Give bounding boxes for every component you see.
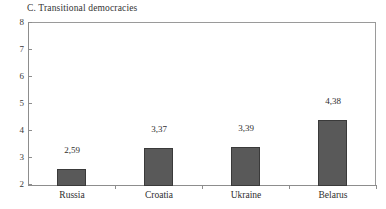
- category-label-ukraine: Ukraine: [218, 190, 274, 201]
- bar-value-russia: 2,59: [46, 145, 98, 155]
- category-label-russia: Russia: [45, 190, 99, 201]
- bars-layer: 2,59 Russia 3,37 Croatia 3,39 Ukraine 4,…: [0, 0, 386, 209]
- bar-value-belarus: 4,38: [307, 96, 359, 106]
- category-label-croatia: Croatia: [131, 190, 187, 201]
- bar-belarus[interactable]: [318, 120, 347, 186]
- bar-russia[interactable]: [57, 169, 86, 186]
- bar-croatia[interactable]: [144, 148, 173, 186]
- category-label-belarus: Belarus: [305, 190, 361, 201]
- bar-value-ukraine: 3,39: [220, 123, 272, 133]
- bar-value-croatia: 3,37: [133, 124, 185, 134]
- chart-page: C. Transitional democracies 8 7 6 5 4 3 …: [0, 0, 386, 209]
- bar-ukraine[interactable]: [231, 147, 260, 186]
